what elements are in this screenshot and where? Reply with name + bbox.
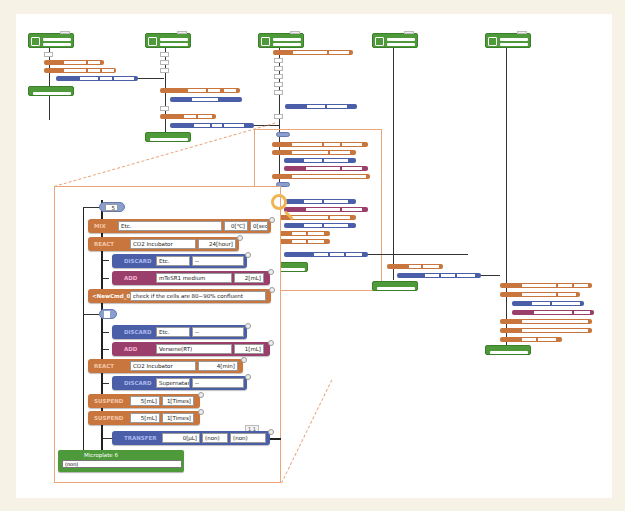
expand-toggle[interactable]	[237, 235, 243, 241]
op-block[interactable]	[160, 114, 216, 119]
expand-toggle[interactable]	[245, 374, 251, 380]
expand-toggle[interactable]	[268, 429, 274, 435]
op-block[interactable]	[273, 50, 353, 55]
op-transfer[interactable]: TRANSFER 0[µL] (non) (non)	[112, 431, 270, 445]
op-block[interactable]	[500, 292, 580, 297]
op-react[interactable]: REACT CO2 Incubator 24[hour]	[88, 237, 239, 251]
expand-toggle[interactable]	[245, 252, 251, 258]
expand-toggle[interactable]	[269, 287, 275, 293]
output-node-5[interactable]	[485, 345, 531, 355]
op-discard[interactable]: DISCARD Supernatant --	[112, 376, 247, 390]
output-node-4[interactable]	[372, 281, 418, 291]
op-block[interactable]	[500, 283, 592, 288]
op-block[interactable]	[387, 264, 443, 269]
container-node-5[interactable]	[485, 33, 531, 48]
container-node-3[interactable]	[258, 33, 304, 48]
magnifier-icon	[271, 194, 287, 210]
output-container-microplate[interactable]: Microplate 6 (non)	[58, 450, 184, 472]
output-value-field[interactable]: (non)	[62, 460, 182, 468]
op-add[interactable]: ADD Versene(RT) 1[mL]	[112, 342, 270, 356]
op-block[interactable]	[44, 60, 104, 65]
op-block[interactable]	[170, 97, 242, 102]
plate-icon	[261, 37, 270, 46]
container-node-1[interactable]	[28, 33, 74, 48]
transfer-block[interactable]	[397, 273, 481, 278]
op-newcmd[interactable]: <NewCmd_0 check if the cells are 80~90% …	[88, 289, 271, 303]
expand-toggle[interactable]	[268, 269, 274, 275]
op-block[interactable]	[500, 337, 562, 342]
op-suspend[interactable]: SUSPEND 5[mL] 1[Times]	[88, 394, 200, 408]
op-suspend[interactable]: SUSPEND 5[mL] 1[Times]	[88, 411, 200, 425]
expand-toggle[interactable]	[269, 217, 275, 223]
op-block[interactable]	[160, 88, 240, 93]
op-add[interactable]: ADD mTeSR1 medium 2[mL]	[112, 271, 270, 285]
expand-toggle[interactable]	[198, 392, 204, 398]
transfer-block[interactable]	[170, 123, 254, 128]
op-block[interactable]	[500, 319, 592, 324]
expand-toggle[interactable]	[245, 323, 251, 329]
expand-toggle[interactable]	[268, 340, 274, 346]
expand-toggle[interactable]	[241, 357, 247, 363]
op-block[interactable]	[512, 301, 584, 306]
output-node-2[interactable]	[145, 132, 191, 142]
dish-icon	[31, 37, 40, 46]
loop-block[interactable]: 5	[99, 202, 125, 212]
loop-block[interactable]	[99, 309, 117, 319]
output-node-1[interactable]	[28, 86, 74, 96]
plate-icon	[488, 37, 497, 46]
op-block[interactable]	[512, 310, 594, 315]
op-block[interactable]	[44, 68, 116, 73]
op-mix[interactable]: MIX Etc. 0[℃] 0[sec]	[88, 219, 271, 233]
expand-toggle[interactable]	[198, 409, 204, 415]
op-discard[interactable]: DISCARD Etc. --	[112, 325, 247, 339]
loop-count[interactable]: 5	[105, 204, 118, 211]
op-react[interactable]: REACT CO2 Incubator 4[min]	[88, 359, 243, 373]
op-block[interactable]	[500, 328, 592, 333]
transfer-block[interactable]	[56, 76, 138, 81]
op-discard[interactable]: DISCARD Etc. --	[112, 254, 247, 268]
tube-icon	[375, 37, 384, 46]
container-node-4[interactable]	[372, 33, 418, 48]
op-block[interactable]	[285, 104, 357, 109]
container-node-2[interactable]	[145, 33, 191, 48]
tube-icon	[148, 37, 157, 46]
